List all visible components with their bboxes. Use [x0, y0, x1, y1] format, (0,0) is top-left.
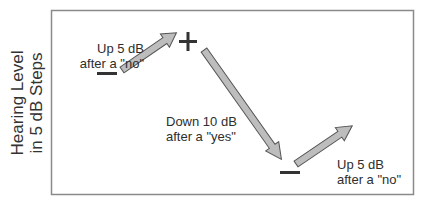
annotation-line2: after a "no"	[64, 56, 144, 71]
annotation-line1: Up 5 dB	[64, 41, 144, 56]
annotation-down-10db: Down 10 dB after a "yes"	[166, 114, 266, 144]
annotation-up-5db-first: Up 5 dB after a "no"	[64, 41, 144, 71]
annotation-line1: Up 5 dB	[337, 157, 417, 172]
y-axis-label-line2: in 5 dB Steps	[27, 18, 46, 188]
y-axis-label-line1: Hearing Level	[8, 18, 27, 188]
annotation-up-5db-second: Up 5 dB after a "no"	[337, 157, 417, 187]
minus-marker-icon	[280, 171, 300, 174]
y-axis-label: Hearing Level in 5 dB Steps	[8, 18, 46, 188]
annotation-line1: Down 10 dB	[166, 114, 266, 129]
minus-marker-icon	[97, 72, 117, 75]
annotation-line2: after a "no"	[337, 172, 417, 187]
annotation-line2: after a "yes"	[166, 129, 266, 144]
